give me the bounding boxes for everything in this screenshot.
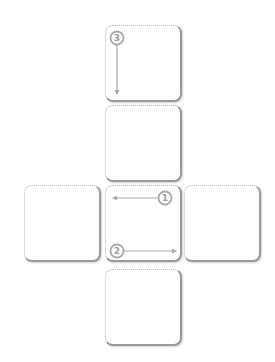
- face-left: [24, 185, 101, 262]
- face-upper-middle: [105, 105, 182, 182]
- marker-1-label: 1: [159, 192, 171, 204]
- marker-3-label: 3: [111, 32, 123, 44]
- face-bottom: [105, 269, 182, 346]
- face-right: [184, 185, 261, 262]
- marker-2-label: 2: [111, 245, 123, 257]
